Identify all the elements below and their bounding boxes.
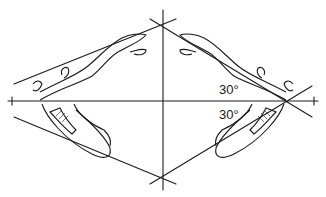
angle-label-lower: 30° (219, 108, 239, 121)
bone-lower-left (42, 104, 111, 157)
diamond-line-top-left (14, 19, 176, 84)
bone-upper-left (33, 34, 146, 100)
angle-label-upper: 30° (219, 83, 239, 96)
diamond-line-top-right (150, 19, 312, 117)
diagram-canvas (0, 0, 326, 197)
